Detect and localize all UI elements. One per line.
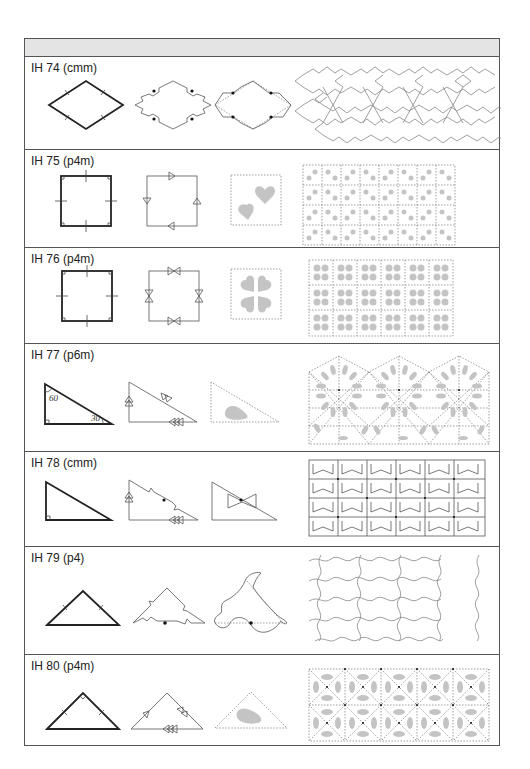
table-header-band bbox=[25, 39, 499, 57]
right-isosceles-triangle-arrow-edges-icon bbox=[131, 693, 203, 733]
triangle-teardrop-motif-icon bbox=[211, 382, 279, 422]
ih76-figures bbox=[25, 248, 501, 344]
svg-text:30: 30 bbox=[90, 413, 101, 423]
tiling-row-ih78: IH 78 (cmm) bbox=[25, 451, 499, 546]
rhombus-deformed-edges-icon bbox=[135, 81, 211, 129]
tiling-row-ih74: IH 74 (cmm) bbox=[25, 57, 499, 149]
isosceles-triangle-curvy-tile-icon bbox=[215, 572, 287, 632]
right-triangle-deformed-icon bbox=[125, 480, 198, 524]
tiling-row-ih76: IH 76 (p4m) bbox=[25, 247, 499, 343]
svg-text:60: 60 bbox=[49, 393, 59, 403]
rhombus-prototile-icon bbox=[49, 81, 123, 129]
right-triangle-prototile-icon bbox=[46, 482, 111, 520]
isosceles-triangle-prototile-icon bbox=[47, 591, 119, 625]
tiling-row-ih75: IH 75 (p4m) bbox=[25, 149, 499, 247]
ih76-tiling-pattern bbox=[309, 260, 453, 336]
triangle-30-60-90-prototile-icon: 60 30 bbox=[45, 384, 112, 424]
isohedral-tiling-table: IH 74 (cmm) bbox=[24, 38, 500, 746]
ih79-tiling-pattern bbox=[309, 555, 479, 641]
ih74-figures bbox=[25, 57, 501, 149]
tiling-row-ih77: IH 77 (p6m) 60 30 bbox=[25, 343, 499, 451]
square-prototile-icon bbox=[56, 265, 118, 327]
square-heart-motif-icon bbox=[231, 175, 281, 225]
ih75-tiling-pattern bbox=[303, 165, 455, 245]
rhombus-final-tile-icon bbox=[215, 81, 291, 129]
ih78-tiling-pattern bbox=[309, 460, 485, 536]
ih79-figures bbox=[25, 547, 501, 655]
ih80-tiling-pattern bbox=[309, 668, 489, 741]
square-bowtie-edges-icon bbox=[145, 267, 203, 325]
tiling-row-ih80: IH 80 (p4m) bbox=[25, 654, 499, 747]
square-arrow-edges-icon bbox=[143, 172, 201, 230]
right-triangle-bowtie-icon bbox=[212, 482, 277, 520]
ih77-figures: 60 30 bbox=[25, 344, 501, 452]
square-prototile-icon bbox=[55, 170, 117, 232]
isosceles-triangle-deformed-icon bbox=[133, 588, 205, 625]
square-clover-motif-icon bbox=[231, 269, 281, 319]
ih77-tiling-pattern bbox=[309, 356, 489, 444]
ih80-figures bbox=[25, 655, 501, 748]
tiling-row-ih79: IH 79 (p4) bbox=[25, 546, 499, 654]
right-isosceles-triangle-teardrop-icon bbox=[215, 692, 287, 728]
ih75-figures bbox=[25, 150, 501, 248]
ih74-tiling-pattern bbox=[295, 67, 501, 143]
triangle-arrow-edges-icon bbox=[125, 382, 197, 426]
right-isosceles-triangle-prototile-icon bbox=[47, 693, 119, 729]
ih78-figures bbox=[25, 452, 501, 547]
